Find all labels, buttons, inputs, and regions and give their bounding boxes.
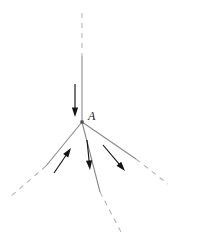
ray-diagram-figure: A [0,0,197,236]
left-ray-direction-arrow-icon [54,148,71,173]
direction-arrows-group [54,84,125,173]
ray-left-dashed [10,166,46,197]
ray-right-dashed [136,159,168,184]
ray-center-dashed [100,192,121,232]
vertex-label-a: A [87,109,96,123]
incident-direction-arrow-icon [72,84,78,117]
vertex-point-dot [80,120,83,123]
ray-diagram-canvas: A [0,0,197,236]
ray-left-solid [46,122,82,166]
center-ray-direction-arrow-icon [86,140,92,170]
